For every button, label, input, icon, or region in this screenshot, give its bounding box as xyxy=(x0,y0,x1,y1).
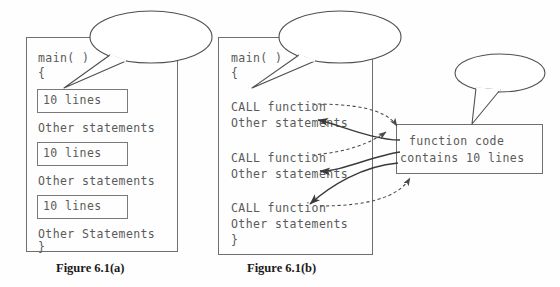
ten-lines-block-2: 10 lines xyxy=(37,142,128,166)
ten-lines-block-3: 10 lines xyxy=(37,195,128,219)
program-a-open-brace: { xyxy=(38,67,45,80)
callout-function-label: Program with function xyxy=(281,20,399,48)
callout-repeated-text-wrap: Program with repeated xyxy=(92,20,210,54)
callout-function-text-wrap: Program with function xyxy=(281,20,399,54)
ten-lines-label-2: 10 lines xyxy=(43,147,102,160)
callout-function-name-shape xyxy=(455,54,545,124)
program-a-close-brace: } xyxy=(38,241,45,254)
call-function-1: CALL function xyxy=(231,101,326,114)
callout-repeated-label: Program with repeated xyxy=(92,20,210,48)
callout-function-name-label: Function xyxy=(456,66,544,80)
function-code-line-1: function code xyxy=(409,135,504,148)
other-statements-b-1: Other statements xyxy=(231,117,348,130)
program-a-header: main( ) xyxy=(38,52,89,65)
ten-lines-label-3: 10 lines xyxy=(43,200,102,213)
call-function-3: CALL function xyxy=(231,202,326,215)
function-code-line-2: contains 10 lines xyxy=(400,152,525,165)
program-b-open-brace: { xyxy=(231,67,238,80)
function-code-box xyxy=(396,124,543,174)
other-statements-b-3: Other statements xyxy=(231,218,348,231)
call-function-2: CALL function xyxy=(231,152,326,165)
caption-figure-b: Figure 6.1(b) xyxy=(247,261,316,276)
program-b-header: main( ) xyxy=(231,52,282,65)
figure-canvas: main( ) { 10 lines Other statements 10 l… xyxy=(0,0,560,287)
ten-lines-label-1: 10 lines xyxy=(43,94,102,107)
callout-function-name-wrap: Function xyxy=(456,66,544,84)
other-statements-b-2: Other statements xyxy=(231,168,348,181)
other-statements-a-2: Other statements xyxy=(38,175,155,188)
other-statements-a-3: Other Statements xyxy=(38,228,155,241)
program-b-close-brace: } xyxy=(231,234,238,247)
other-statements-a-1: Other statements xyxy=(38,122,155,135)
caption-figure-a: Figure 6.1(a) xyxy=(56,261,125,276)
ten-lines-block-1: 10 lines xyxy=(37,89,128,113)
